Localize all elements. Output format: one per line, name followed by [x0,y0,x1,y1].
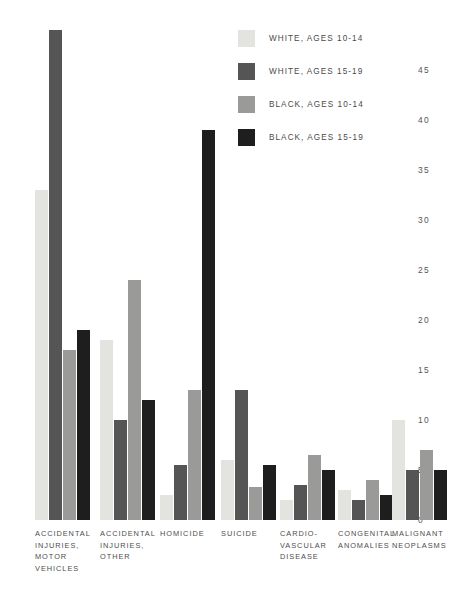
x-axis-category-label-line: MOTOR [35,551,101,563]
bar[interactable] [420,450,433,520]
x-axis-category-label: ACCIDENTALINJURIES,OTHER [100,528,166,563]
bar[interactable] [128,280,141,520]
bar[interactable] [392,420,405,520]
bar[interactable] [308,455,321,520]
bar[interactable] [352,500,365,520]
bar[interactable] [35,190,48,520]
x-axis-category-label-line: HOMICIDE [160,528,226,540]
bar[interactable] [235,390,248,520]
bar-group-bars [338,20,394,520]
bar[interactable] [294,485,307,520]
x-axis-category-label-line: DISEASE [280,551,346,563]
x-axis-category-label-line: VASCULAR [280,540,346,552]
bar[interactable] [142,400,155,520]
x-axis-category-label: HOMICIDE [160,528,226,540]
x-axis-category-label-line: INJURIES, [100,540,166,552]
bar-group-bars [280,20,336,520]
bar-chart: WHITE, AGES 10-14WHITE, AGES 15-19BLACK,… [0,0,460,597]
bar[interactable] [366,480,379,520]
bar[interactable] [174,465,187,520]
bar[interactable] [114,420,127,520]
bar-group-bars [35,20,91,520]
bar[interactable] [406,470,419,520]
x-axis-category-label-line: NEOPLASMS [392,540,458,552]
bar[interactable] [221,460,234,520]
plot-area: ACCIDENTALINJURIES,MOTORVEHICLESACCIDENT… [18,0,414,597]
x-axis-category-label: ACCIDENTALINJURIES,MOTORVEHICLES [35,528,101,574]
bar-group-bars [100,20,156,520]
bar-group-bars [221,20,277,520]
x-axis-category-label-line: INJURIES, [35,540,101,552]
x-axis-category-label-line: ACCIDENTAL [100,528,166,540]
bar[interactable] [263,465,276,520]
bar[interactable] [160,495,173,520]
bar[interactable] [100,340,113,520]
x-axis-category-label-line: MALIGNANT [392,528,458,540]
bar[interactable] [49,30,62,520]
bar[interactable] [63,350,76,520]
bar[interactable] [338,490,351,520]
x-axis-category-label-line: CARDIO- [280,528,346,540]
bar[interactable] [188,390,201,520]
bar[interactable] [249,487,262,520]
bar-group-bars [160,20,216,520]
bar[interactable] [202,130,215,520]
bar[interactable] [280,500,293,520]
bar[interactable] [322,470,335,520]
x-axis-category-label-line: ACCIDENTAL [35,528,101,540]
x-axis-category-label-line: SUICIDE [221,528,287,540]
bar[interactable] [77,330,90,520]
x-axis-category-label: CARDIO-VASCULARDISEASE [280,528,346,563]
x-axis-category-label: SUICIDE [221,528,287,540]
x-axis-category-label-line: OTHER [100,551,166,563]
x-axis-category-label: MALIGNANTNEOPLASMS [392,528,458,551]
x-axis-category-label-line: VEHICLES [35,563,101,575]
bar-group-bars [392,20,448,520]
bar[interactable] [434,470,447,520]
